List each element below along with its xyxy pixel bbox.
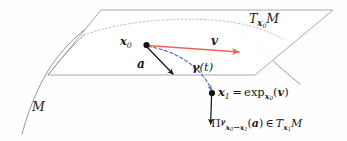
endpoint-equals: =: [232, 85, 242, 99]
endpoint-label: x1 = expx0(v): [218, 87, 289, 102]
base-point-subscript: 0: [127, 41, 132, 50]
exp-operator: exp: [244, 85, 265, 99]
base-point-label: x0: [120, 36, 132, 49]
endpoint-paren-close: ): [284, 85, 289, 99]
manifold-label: M: [32, 101, 45, 114]
transport-target-manifold: M: [291, 117, 302, 130]
geometry-figure: Tx0M x0 v a γ(t) M x1 = expx0(v) Πγx0→x1…: [0, 0, 347, 141]
vector-a-label: a: [137, 58, 145, 70]
transport-pi-symbol: Π: [211, 117, 221, 130]
geodesic-symbol: γ: [192, 60, 200, 74]
tangent-space-manifold: M: [266, 11, 279, 26]
parallel-transport-label: Πγx0→x1(a) ∈ Tx1M: [211, 118, 302, 132]
geodesic-label: γ(t): [192, 62, 213, 74]
tangent-vector-label: v: [211, 35, 218, 47]
transport-membership-glyph: ∈: [265, 117, 273, 130]
tangent-vector-symbol: v: [211, 34, 218, 48]
tangent-plane: [48, 10, 333, 75]
tangent-space-label: Tx0M: [249, 13, 279, 28]
manifold-symbol: M: [32, 99, 45, 114]
geodesic-argument: (t): [200, 60, 214, 74]
base-point-symbol: x: [120, 34, 127, 48]
endpoint-symbol: x: [218, 85, 225, 99]
base-point-x0: [143, 42, 149, 48]
transport-argument: a: [252, 117, 259, 130]
vector-a-symbol: a: [137, 57, 145, 71]
